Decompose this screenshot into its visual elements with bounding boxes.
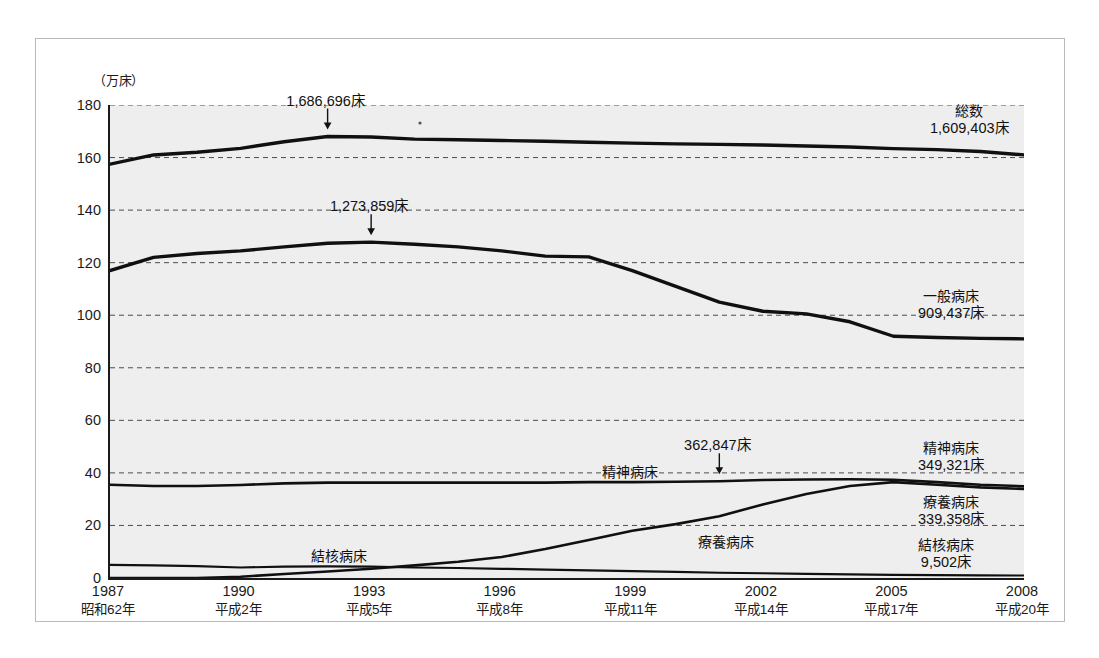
right-label-name: 総数 — [930, 103, 1009, 120]
plot-area — [108, 105, 1024, 580]
y-tick-180: 180 — [77, 97, 101, 113]
right-label-精神病床: 精神病床349,321床 — [918, 440, 984, 474]
annotation-arrows — [324, 109, 723, 475]
y-axis-tick-labels: 180160140120100806040200 — [48, 105, 102, 578]
x-tick-era: 平成5年 — [346, 600, 393, 619]
y-tick-160: 160 — [77, 150, 101, 166]
x-tick-year: 1990 — [215, 583, 262, 600]
x-tick-1987: 1987昭和62年 — [81, 583, 135, 619]
right-label-value: 349,321床 — [918, 457, 984, 474]
x-tick-1990: 1990平成2年 — [215, 583, 262, 619]
y-tick-140: 140 — [77, 202, 101, 218]
annotation-3: 362,847床 — [684, 433, 750, 454]
x-tick-era: 平成20年 — [995, 600, 1049, 619]
y-tick-40: 40 — [85, 465, 101, 481]
x-tick-1999: 1999平成11年 — [604, 583, 657, 619]
annotation-2: 1,273,859床 — [330, 194, 409, 215]
annotation-1: 1,686,696床 — [286, 89, 365, 110]
bed-count-trend-chart: （万床） 180160140120100806040200 1,686,696床… — [0, 0, 1099, 658]
gridlines — [110, 105, 1024, 525]
series-line-総数 — [110, 137, 1024, 165]
right-label-value: 1,609,403床 — [930, 120, 1009, 137]
y-axis-unit-label: （万床） — [93, 70, 144, 89]
x-tick-year: 2002 — [734, 583, 788, 600]
x-tick-year: 1999 — [604, 583, 657, 600]
x-tick-era: 平成14年 — [734, 600, 788, 619]
x-tick-year: 1996 — [476, 583, 523, 600]
x-tick-1996: 1996平成8年 — [476, 583, 523, 619]
right-label-name: 一般病床 — [918, 288, 984, 305]
x-tick-era: 平成2年 — [215, 600, 262, 619]
right-label-name: 結核病床 — [918, 537, 974, 554]
right-label-value: 909,437床 — [918, 305, 984, 322]
inline-label-療養病床: 療養病床 — [698, 531, 754, 551]
right-label-value: 339,358床 — [918, 511, 984, 528]
right-label-結核病床: 結核病床9,502床 — [918, 537, 974, 571]
x-tick-year: 1987 — [81, 583, 135, 600]
right-label-療養病床: 療養病床339,358床 — [918, 494, 984, 528]
x-tick-year: 1993 — [346, 583, 393, 600]
y-tick-120: 120 — [77, 255, 101, 271]
x-tick-2002: 2002平成14年 — [734, 583, 788, 619]
series-line-一般病床 — [110, 242, 1024, 339]
x-tick-year: 2008 — [995, 583, 1049, 600]
inline-label-結核病床: 結核病床 — [311, 545, 367, 565]
data-lines — [110, 137, 1024, 578]
x-tick-year: 2005 — [864, 583, 918, 600]
inline-label-精神病床: 精神病床 — [602, 461, 658, 481]
y-tick-60: 60 — [85, 412, 101, 428]
right-label-総数: 総数1,609,403床 — [930, 103, 1009, 137]
right-label-name: 療養病床 — [918, 494, 984, 511]
right-label-name: 精神病床 — [918, 440, 984, 457]
y-tick-20: 20 — [85, 517, 101, 533]
x-tick-2008: 2008平成20年 — [995, 583, 1049, 619]
x-tick-era: 平成17年 — [864, 600, 918, 619]
right-label-value: 9,502床 — [918, 554, 974, 571]
series-line-療養病床 — [110, 482, 1024, 578]
series-line-結核病床 — [110, 565, 1024, 576]
right-label-一般病床: 一般病床909,437床 — [918, 288, 984, 322]
x-tick-era: 昭和62年 — [81, 600, 135, 619]
x-tick-2005: 2005平成17年 — [864, 583, 918, 619]
print-speck — [418, 121, 421, 124]
x-axis-tick-labels: 1987昭和62年1990平成2年1993平成5年1996平成8年1999平成1… — [108, 583, 1022, 643]
x-tick-1993: 1993平成5年 — [346, 583, 393, 619]
y-tick-80: 80 — [85, 360, 101, 376]
x-tick-era: 平成8年 — [476, 600, 523, 619]
y-tick-100: 100 — [77, 307, 101, 323]
x-tick-era: 平成11年 — [604, 600, 657, 619]
plot-svg — [110, 105, 1024, 578]
